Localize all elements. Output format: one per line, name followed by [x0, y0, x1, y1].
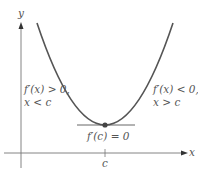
right-annotation-line1: f′(x) < 0, [152, 83, 198, 95]
x-axis: x c [4, 146, 195, 169]
left-annotation-line1: f′(x) > 0, [23, 83, 70, 95]
x-axis-arrow-icon [181, 151, 188, 156]
parabola-curve [37, 23, 173, 125]
x-axis-label: x [189, 146, 195, 158]
derivative-diagram: y x c f′(c) = 0 f′(x) > 0, x < c f′(x) <… [0, 0, 198, 174]
y-axis-label: y [17, 7, 25, 19]
critical-point-label: f′(c) = 0 [86, 130, 130, 142]
critical-point-dot [102, 122, 107, 127]
y-axis-arrow-icon [19, 22, 24, 29]
tick-label-c: c [102, 157, 108, 169]
right-annotation-line2: x > c [153, 96, 180, 108]
left-annotation-line2: x < c [24, 96, 51, 108]
